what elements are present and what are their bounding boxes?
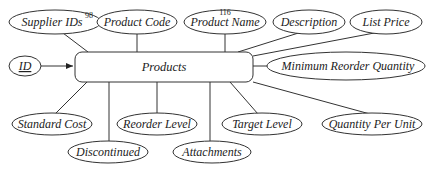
er-diagram: Products ID Supplier IDs 98 Product Code… <box>0 0 430 172</box>
attribute-label: Supplier IDs <box>22 15 83 29</box>
attribute-label: Attachments <box>181 145 242 159</box>
attribute-label: Description <box>280 15 338 29</box>
attribute-label: Reorder Level <box>122 117 192 131</box>
attribute-attachments[interactable]: Attachments <box>173 141 251 163</box>
attribute-reorder-level[interactable]: Reorder Level <box>117 113 197 135</box>
attribute-discontinued[interactable]: Discontinued <box>68 141 148 163</box>
attribute-label: Minimum Reorder Quantity <box>281 59 416 73</box>
attribute-label: Quantity Per Unit <box>329 117 416 131</box>
attribute-standard-cost[interactable]: Standard Cost <box>12 113 92 135</box>
attribute-minimum-reorder-quantity[interactable]: Minimum Reorder Quantity <box>267 52 425 80</box>
attribute-label: Target Level <box>232 117 292 131</box>
attribute-label: List Price <box>362 15 411 29</box>
attribute-supplier-ids[interactable]: Supplier IDs 98 <box>9 10 101 34</box>
attribute-superscript: 98 <box>85 11 93 20</box>
attribute-quantity-per-unit[interactable]: Quantity Per Unit <box>322 113 422 135</box>
attribute-label: ID <box>18 59 32 73</box>
attribute-label: Product Name <box>189 15 260 29</box>
attribute-superscript: 116 <box>219 8 231 17</box>
attribute-target-level[interactable]: Target Level <box>222 113 302 135</box>
attribute-description[interactable]: Description <box>273 10 345 34</box>
entity-label: Products <box>141 60 187 74</box>
connector-target-level <box>230 82 258 114</box>
attribute-list-price[interactable]: List Price <box>350 10 422 34</box>
connector-qty-per-unit <box>253 82 370 114</box>
attribute-label: Discontinued <box>75 145 141 159</box>
attribute-product-name[interactable]: Product Name 116 <box>184 8 266 34</box>
entity-products[interactable]: Products <box>75 52 253 82</box>
attribute-id[interactable]: ID <box>9 56 41 76</box>
attribute-product-code[interactable]: Product Code <box>97 10 177 34</box>
attribute-label: Product Code <box>103 15 171 29</box>
connector-standard-cost <box>55 82 87 114</box>
attribute-label: Standard Cost <box>18 117 87 131</box>
